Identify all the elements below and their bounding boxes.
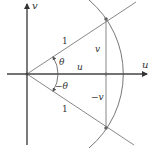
lower-radius-label: 1	[62, 104, 68, 114]
point-base	[105, 73, 108, 76]
base-length-label: u	[77, 62, 83, 72]
angle-negative-label: −θ	[55, 81, 69, 91]
vertical-axis-label: v	[32, 0, 38, 11]
lower-height-label: −v	[91, 92, 104, 102]
horizontal-axis-label: u	[142, 59, 148, 70]
upper-radius-label: 1	[62, 36, 68, 46]
point-upper	[104, 17, 108, 21]
angle-positive-label: θ	[59, 57, 65, 67]
origin-point	[26, 73, 29, 76]
upper-height-label: v	[95, 44, 100, 54]
point-lower	[104, 126, 108, 130]
angle-arc-positive	[53, 57, 58, 74]
unit-circle-diagram: v u 1 1 v −v θ u −θ	[0, 0, 152, 151]
lower-radius-line	[27, 74, 134, 145]
